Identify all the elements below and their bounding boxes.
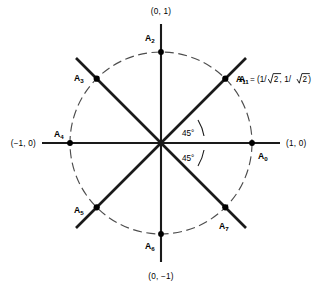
vertex-label-a2: A2 (145, 33, 155, 44)
vertex-dot-a2 (158, 49, 164, 55)
vertex-dot-a5 (94, 204, 100, 210)
a1-coordinate-annotation: A1 = (1/ 2 , 1/ 2 ) (239, 74, 311, 85)
vertex-label-a6: A6 (145, 241, 155, 252)
angle-label-lower: 45° (182, 154, 194, 163)
axis-label-bottom: (0, −1) (148, 272, 173, 281)
unit-circle-figure: A0 A1 A2 A3 A4 A5 A6 A7 (1, 0) (−1, 0) (… (0, 0, 322, 287)
vertex-dot-a6 (158, 231, 164, 237)
a1-annotation-close: ) (308, 75, 311, 84)
angle-tick-lower (198, 150, 204, 166)
vertex-dot-a0 (249, 140, 255, 146)
a1-annotation-middle: , 1/ (280, 75, 292, 84)
vertex-label-a0: A0 (258, 151, 268, 162)
vertex-dot-a4 (67, 140, 73, 146)
angle-tick-upper (198, 120, 204, 136)
vertex-dot-a1 (222, 76, 228, 82)
axis-label-top: (0, 1) (151, 7, 171, 16)
a1-radicand-first: 2 (274, 75, 279, 84)
axis-label-right: (1, 0) (286, 139, 306, 148)
a1-annotation-symbol: A1 (239, 74, 249, 85)
vertex-label-a7: A7 (219, 221, 229, 232)
a1-annotation-equals: = (1/ (250, 75, 267, 84)
vertex-label-a5: A5 (74, 205, 84, 216)
vertex-dot-a3 (94, 76, 100, 82)
angle-label-upper: 45° (182, 129, 194, 138)
vertex-label-a4: A4 (54, 129, 64, 140)
diagram-canvas: A0 A1 A2 A3 A4 A5 A6 A7 (1, 0) (−1, 0) (… (0, 0, 322, 287)
vertex-dot-a7 (222, 204, 228, 210)
a1-radicand-second: 2 (303, 75, 308, 84)
axis-label-left: (−1, 0) (11, 139, 36, 148)
vertex-label-a3: A3 (74, 73, 84, 84)
